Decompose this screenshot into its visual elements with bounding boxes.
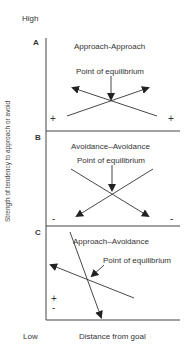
panel-b-arrow-left xyxy=(77,169,153,216)
panel-b-arrow-right xyxy=(71,169,148,216)
panel-a-arrow-left xyxy=(73,88,157,116)
diagram-graphics xyxy=(0,0,190,357)
panel-a-arrow-right xyxy=(67,88,148,116)
panel-c-equilibrium-pointer xyxy=(92,265,104,276)
